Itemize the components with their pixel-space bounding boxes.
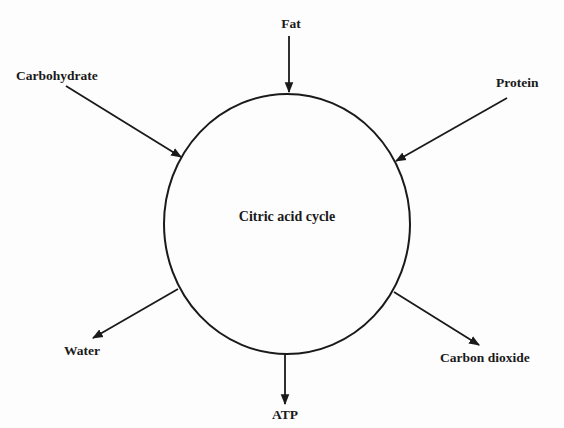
citric-acid-cycle-diagram: Citric acid cycle Fat Carbohydrate Prote… [0, 0, 564, 428]
label-protein: Protein [496, 75, 539, 90]
label-atp: ATP [272, 407, 298, 422]
arrow-protein-in [396, 98, 507, 161]
cycle-label: Citric acid cycle [239, 209, 335, 224]
diagram-canvas: Citric acid cycle Fat Carbohydrate Prote… [0, 0, 564, 428]
label-fat: Fat [281, 16, 301, 31]
arrow-water-out [93, 289, 178, 338]
label-carbon-dioxide: Carbon dioxide [440, 350, 530, 365]
arrow-carbon-dioxide-out [394, 292, 479, 345]
label-water: Water [64, 343, 100, 358]
cycle-circle [164, 94, 410, 354]
label-carbohydrate: Carbohydrate [16, 68, 98, 83]
arrow-carbohydrate-in [66, 86, 181, 157]
